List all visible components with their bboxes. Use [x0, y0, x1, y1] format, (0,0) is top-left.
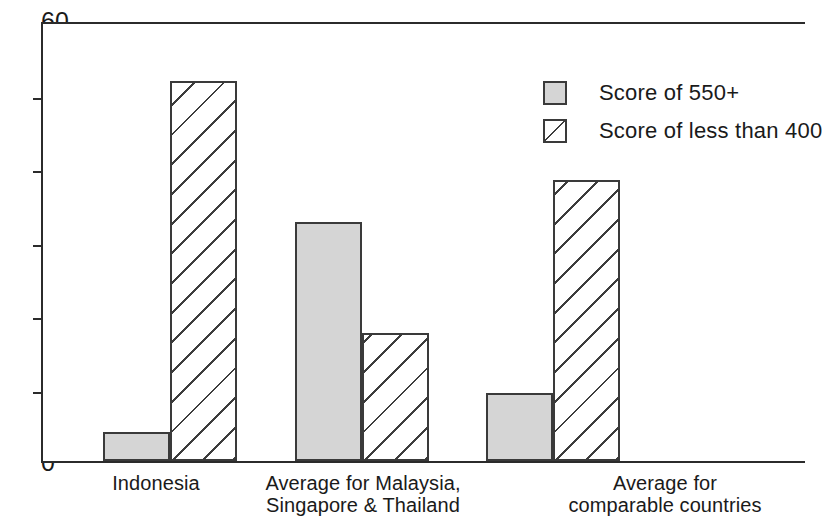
- x-axis-category-label-malaysia-singapore-thailand: Average for Malaysia, Singapore & Thaila…: [228, 472, 498, 517]
- legend-item-score-less-than-400: Score of less than 400: [543, 112, 822, 150]
- legend-solid-gray-swatch-icon: [543, 81, 567, 105]
- legend-diagonal-hatch-swatch-icon: [543, 119, 567, 143]
- bar-malaysia-singapore-thailand-score-less-than-400: [362, 333, 429, 461]
- x-axis-category-label-comparable-countries: Average for comparable countries: [525, 472, 805, 517]
- bar-indonesia-score-550-plus: [103, 432, 170, 461]
- bar-comparable-countries-score-less-than-400: [553, 180, 620, 461]
- y-axis-tick-mark: [33, 245, 43, 247]
- legend-item-score-550-plus: Score of 550+: [543, 74, 822, 112]
- y-axis-tick-mark: [33, 98, 43, 100]
- y-axis-tick-mark: [33, 318, 43, 320]
- bar-indonesia-score-less-than-400: [170, 81, 237, 461]
- legend-item-label: Score of less than 400: [599, 118, 822, 144]
- legend: Score of 550+ Score of less than 400: [543, 74, 822, 150]
- plot-area: Score of 550+ Score of less than 400: [41, 22, 805, 463]
- y-axis-tick-mark: [33, 392, 43, 394]
- bar-malaysia-singapore-thailand-score-550-plus: [295, 222, 362, 461]
- bar-comparable-countries-score-550-plus: [486, 393, 553, 461]
- legend-item-label: Score of 550+: [599, 80, 739, 106]
- y-axis-tick-mark: [33, 171, 43, 173]
